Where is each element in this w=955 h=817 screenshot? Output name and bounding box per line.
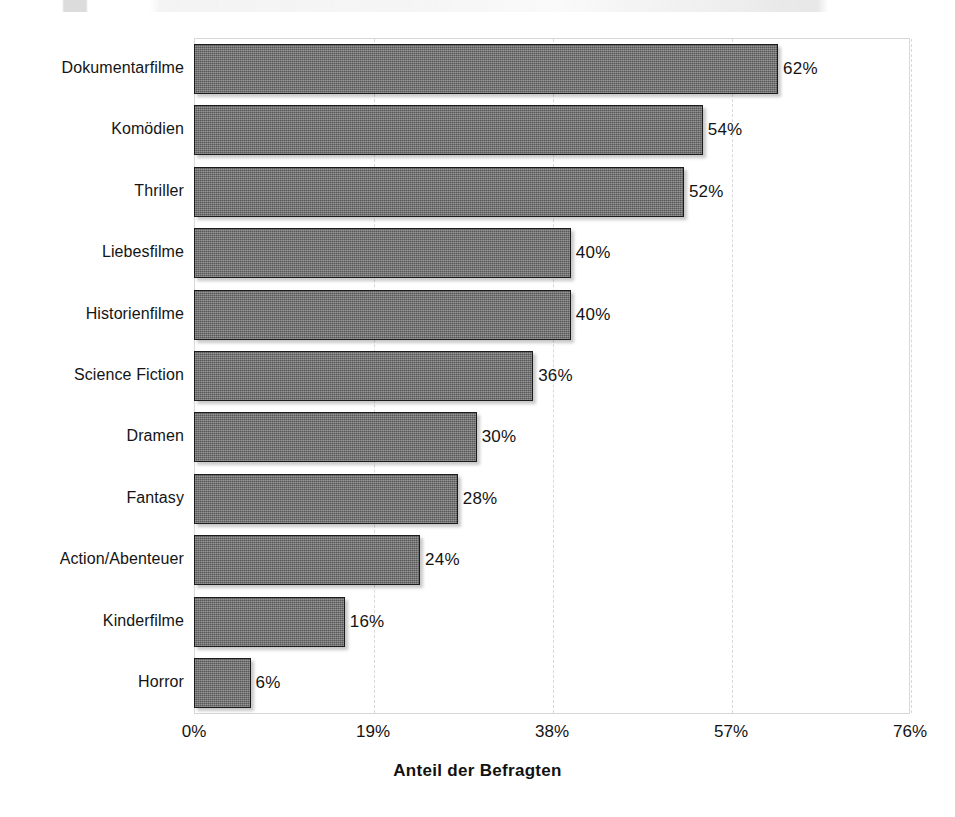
bar-row: 40%	[194, 228, 910, 278]
bar-row: 30%	[194, 412, 910, 462]
bar-row: 6%	[194, 658, 910, 708]
x-axis-tick-label: 0%	[182, 722, 207, 742]
y-axis-tick-label: Dramen	[0, 427, 184, 445]
bar-row: 36%	[194, 351, 910, 401]
y-axis-tick-label: Komödien	[0, 120, 184, 138]
bar-horror[interactable]	[194, 658, 251, 708]
bar-row: 16%	[194, 597, 910, 647]
y-axis-tick-label: Thriller	[0, 182, 184, 200]
y-axis-tick-label: Historienfilme	[0, 305, 184, 323]
bar-value-label: 6%	[256, 673, 281, 693]
gridline-76	[911, 39, 912, 713]
bar-thriller[interactable]	[194, 167, 684, 217]
bar-row: 62%	[194, 44, 910, 94]
y-axis-tick-label: Horror	[0, 673, 184, 691]
y-axis-tick-label: Fantasy	[0, 489, 184, 507]
bar-value-label: 40%	[576, 243, 611, 263]
bar-liebesfilme[interactable]	[194, 228, 571, 278]
bar-value-label: 30%	[482, 427, 517, 447]
x-axis-tick-label: 76%	[893, 722, 927, 742]
bar-historienfilme[interactable]	[194, 290, 571, 340]
y-axis-tick-label: Liebesfilme	[0, 243, 184, 261]
bar-value-label: 36%	[538, 366, 573, 386]
x-axis-tick-label: 19%	[356, 722, 390, 742]
bar-value-label: 28%	[463, 489, 498, 509]
y-axis-tick-label: Science Fiction	[0, 366, 184, 384]
x-axis-tick-label: 57%	[714, 722, 748, 742]
bar-row: 40%	[194, 290, 910, 340]
bar-row: 54%	[194, 105, 910, 155]
bar-kinderfilme[interactable]	[194, 597, 345, 647]
x-axis-tick-label: 38%	[535, 722, 569, 742]
bar-fantasy[interactable]	[194, 474, 458, 524]
bar-value-label: 16%	[350, 612, 385, 632]
bar-dramen[interactable]	[194, 412, 477, 462]
bar-value-label: 24%	[425, 550, 460, 570]
y-axis-tick-label: Dokumentarfilme	[0, 59, 184, 77]
bar-row: 52%	[194, 167, 910, 217]
bar-row: 24%	[194, 535, 910, 585]
bar-kom-dien[interactable]	[194, 105, 703, 155]
bar-value-label: 40%	[576, 305, 611, 325]
bar-row: 28%	[194, 474, 910, 524]
y-axis-tick-label: Kinderfilme	[0, 612, 184, 630]
horizontal-bar-chart: Anteil der Befragten 62%Dokumentarfilme5…	[0, 0, 955, 817]
y-axis-tick-label: Action/Abenteuer	[0, 550, 184, 568]
bar-value-label: 62%	[783, 59, 818, 79]
bar-value-label: 54%	[708, 120, 743, 140]
bar-value-label: 52%	[689, 182, 724, 202]
bar-science-fiction[interactable]	[194, 351, 533, 401]
x-axis-title: Anteil der Befragten	[0, 761, 955, 781]
bar-dokumentarfilme[interactable]	[194, 44, 778, 94]
bar-action-abenteuer[interactable]	[194, 535, 420, 585]
